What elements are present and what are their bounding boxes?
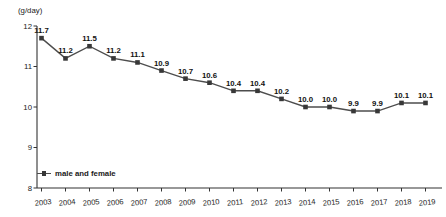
legend: male and female bbox=[37, 169, 116, 178]
data-point-marker bbox=[423, 101, 428, 106]
y-axis-tick-label: 11 bbox=[24, 62, 32, 71]
data-point-label: 10.9 bbox=[154, 59, 170, 68]
data-point-label: 10.4 bbox=[226, 79, 242, 88]
x-axis-tick-label: 2015 bbox=[322, 197, 340, 208]
line-chart: 11.711.211.511.211.110.910.710.610.410.4… bbox=[0, 0, 446, 217]
data-point-label: 10.2 bbox=[274, 87, 290, 96]
data-point-marker bbox=[375, 109, 380, 114]
x-axis-tick-label: 2016 bbox=[346, 197, 364, 208]
y-axis-tick-label: 10 bbox=[23, 103, 32, 112]
y-axis-tick-label: 12 bbox=[23, 22, 32, 31]
data-point-label: 11.7 bbox=[34, 26, 49, 35]
data-point-label: 11.5 bbox=[82, 34, 97, 43]
x-axis-tick-label: 2003 bbox=[34, 197, 52, 208]
data-point-marker bbox=[255, 89, 260, 94]
data-point-label: 11.1 bbox=[130, 50, 145, 59]
data-point-label: 10.7 bbox=[178, 67, 193, 76]
data-point-label: 10.1 bbox=[418, 91, 434, 100]
x-axis-tick-label: 2011 bbox=[227, 197, 244, 208]
data-point-marker bbox=[111, 56, 116, 61]
x-axis-tick-label: 2013 bbox=[274, 197, 292, 208]
data-point-label: 11.2 bbox=[106, 46, 121, 55]
y-axis-tick-label: 8 bbox=[28, 184, 32, 193]
x-axis-tick-label: 2006 bbox=[106, 197, 124, 208]
data-point-marker bbox=[279, 97, 284, 102]
x-axis-tick-label: 2008 bbox=[154, 197, 172, 208]
data-point-marker bbox=[135, 60, 140, 65]
data-point-marker bbox=[183, 76, 188, 81]
x-axis-tick-label: 2005 bbox=[82, 197, 100, 208]
data-point-marker bbox=[159, 68, 164, 73]
data-point-marker bbox=[351, 109, 356, 114]
data-point-label: 11.2 bbox=[58, 46, 73, 55]
data-point-label: 10.0 bbox=[322, 95, 338, 104]
data-point-marker bbox=[399, 101, 404, 106]
x-axis-tick-label: 2019 bbox=[418, 197, 436, 208]
data-point-label: 9.9 bbox=[372, 99, 384, 108]
x-axis-tick-label: 2014 bbox=[298, 197, 316, 208]
x-axis-tick-label: 2004 bbox=[58, 197, 76, 208]
chart-figure: 11.711.211.511.211.110.910.710.610.410.4… bbox=[0, 0, 446, 217]
data-point-label: 9.9 bbox=[348, 99, 360, 108]
data-point-label: 10.1 bbox=[394, 91, 410, 100]
series-line bbox=[42, 38, 426, 111]
data-point-marker bbox=[63, 56, 68, 61]
legend-series-label: male and female bbox=[55, 169, 116, 178]
x-axis-tick-label: 2010 bbox=[202, 197, 220, 208]
y-axis-tick-label: 9 bbox=[28, 143, 32, 152]
x-axis-tick-label: 2007 bbox=[130, 197, 148, 208]
data-point-marker bbox=[231, 89, 236, 94]
x-axis-tick-label: 2009 bbox=[178, 197, 196, 208]
data-point-marker bbox=[327, 105, 332, 110]
y-axis-unit-label: (g/day) bbox=[18, 6, 42, 15]
data-point-marker bbox=[303, 105, 308, 110]
data-point-label: 10.6 bbox=[202, 71, 218, 80]
data-point-marker bbox=[207, 80, 212, 85]
x-axis-tick-label: 2012 bbox=[250, 197, 268, 208]
data-point-label: 10.4 bbox=[250, 79, 266, 88]
legend-line-marker-icon bbox=[37, 170, 51, 177]
x-axis-tick-label: 2017 bbox=[370, 197, 388, 208]
data-point-label: 10.0 bbox=[298, 95, 314, 104]
data-point-marker bbox=[39, 36, 44, 41]
data-point-marker bbox=[87, 44, 92, 49]
x-axis-tick-label: 2018 bbox=[394, 197, 412, 208]
